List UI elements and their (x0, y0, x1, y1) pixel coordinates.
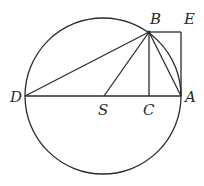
geometry-diagram: B E D S C A (0, 0, 204, 186)
segment-SB (104, 32, 149, 96)
label-B: B (149, 10, 161, 28)
label-C: C (143, 101, 155, 119)
label-A: A (183, 88, 196, 106)
segment-DB (25, 32, 149, 96)
point-B-dot (147, 30, 150, 33)
label-S: S (98, 101, 108, 119)
segment-BA (149, 32, 181, 96)
label-D: D (9, 88, 22, 106)
label-E: E (183, 10, 195, 28)
